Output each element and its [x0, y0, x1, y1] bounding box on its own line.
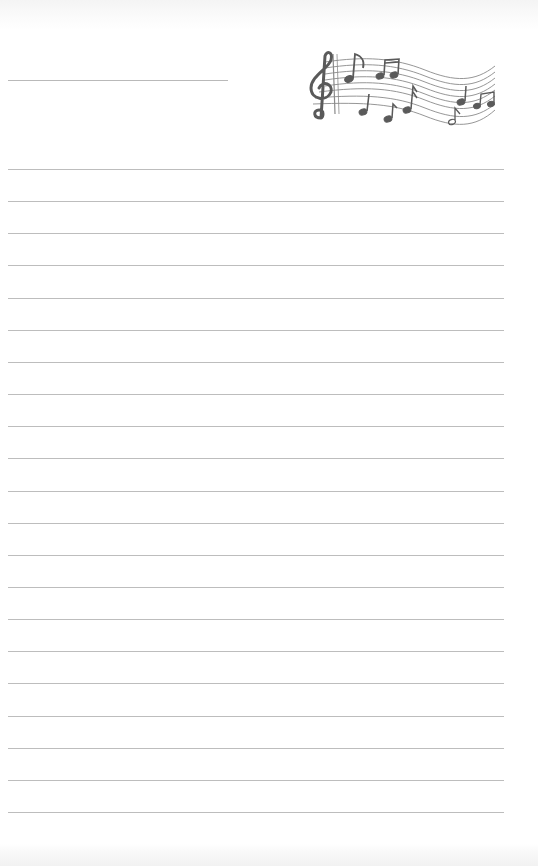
- ruled-line: [8, 716, 504, 717]
- ruled-line: [8, 201, 504, 202]
- ruled-line: [8, 426, 504, 427]
- scan-shadow-bottom: [0, 844, 538, 866]
- ruled-line: [8, 169, 504, 170]
- scan-shadow-top: [0, 0, 538, 30]
- ruled-line: [8, 780, 504, 781]
- ruled-line: [8, 394, 504, 395]
- ruled-line: [8, 458, 504, 459]
- ruled-line: [8, 619, 504, 620]
- title-write-line: [8, 80, 228, 81]
- lined-paper-page: [0, 0, 538, 866]
- ruled-line: [8, 233, 504, 234]
- ruled-line: [8, 748, 504, 749]
- ruled-line: [8, 587, 504, 588]
- ruled-line: [8, 362, 504, 363]
- ruled-line: [8, 683, 504, 684]
- ruled-line: [8, 651, 504, 652]
- ruled-line: [8, 491, 504, 492]
- music-staff-with-treble-clef-and-notes-icon: [305, 48, 501, 132]
- ruled-line: [8, 265, 504, 266]
- ruled-line: [8, 523, 504, 524]
- ruled-line: [8, 298, 504, 299]
- ruled-line: [8, 812, 504, 813]
- ruled-line: [8, 555, 504, 556]
- ruled-line: [8, 330, 504, 331]
